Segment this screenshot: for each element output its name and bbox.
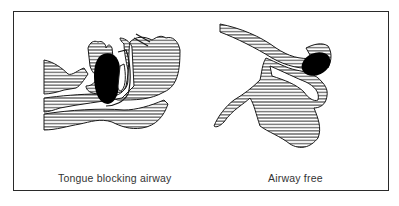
tongue-shape — [94, 53, 120, 104]
head-cross-section-blocked-illustration — [40, 30, 190, 140]
head-cross-section-open-illustration — [210, 18, 370, 158]
diagram-airway-free — [210, 18, 370, 158]
diagram-tongue-blocking-airway — [40, 30, 190, 140]
caption-tongue-blocking-airway: Tongue blocking airway — [58, 172, 172, 184]
caption-airway-free: Airway free — [268, 172, 323, 184]
